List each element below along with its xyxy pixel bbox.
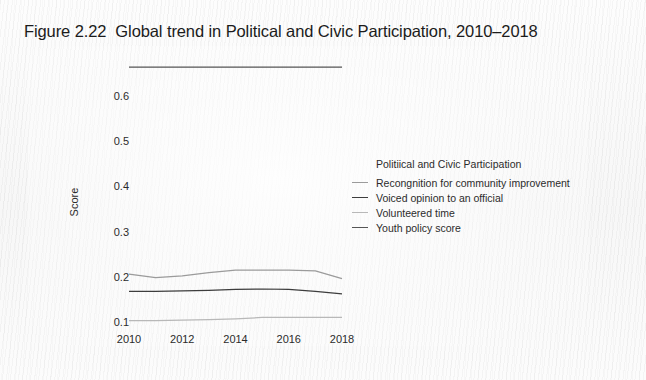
x-tick-label: 2018 [330,333,354,345]
legend-title: Politiical and Civic Participation [376,158,602,170]
y-tick-label: 0.5 [95,135,129,147]
y-axis-label: Score [68,188,80,217]
x-tick-label: 2014 [223,333,247,345]
chart-legend: Politiical and Civic Participation Recon… [352,158,602,235]
y-axis-ticks: 0.10.20.30.40.50.6 [95,0,129,380]
series-line [129,317,342,320]
legend-items: Recongnition for community improvementVo… [352,175,602,235]
x-tick-label: 2012 [170,333,194,345]
y-tick-label: 0.4 [95,180,129,192]
y-tick-label: 0.2 [95,271,129,283]
legend-item-label: Voiced opinion to an official [376,192,503,204]
y-tick-label: 0.6 [95,90,129,102]
y-tick-label: 0.1 [95,316,129,328]
legend-line-swatch [352,197,368,198]
legend-item-label: Volunteered time [376,207,455,219]
series-line [129,270,342,279]
legend-line-swatch [352,182,368,183]
legend-line-swatch [352,227,368,228]
legend-item-label: Recongnition for community improvement [376,177,570,189]
series-lines [129,67,342,321]
figure-page: Figure 2.22 Global trend in Political an… [0,0,646,380]
legend-item[interactable]: Youth policy score [352,220,602,235]
legend-item[interactable]: Recongnition for community improvement [352,175,602,190]
series-line [129,289,342,294]
x-axis-ticks: 20102012201420162018 [0,333,646,349]
x-tick-label: 2010 [117,333,141,345]
legend-line-swatch [352,212,368,213]
legend-item-label: Youth policy score [376,222,461,234]
legend-item[interactable]: Volunteered time [352,205,602,220]
legend-item[interactable]: Voiced opinion to an official [352,190,602,205]
x-tick-label: 2016 [277,333,301,345]
y-tick-label: 0.3 [95,226,129,238]
